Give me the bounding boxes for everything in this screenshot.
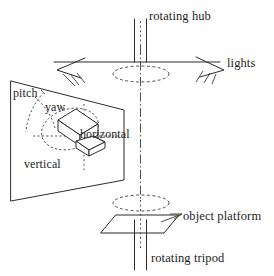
label-yaw: yaw bbox=[45, 101, 65, 113]
technical-diagram: rotating hub lights pitch yaw horizontal… bbox=[0, 0, 274, 276]
hub-rotation-ellipse bbox=[113, 66, 169, 82]
label-rotating-hub: rotating hub bbox=[149, 10, 211, 23]
platform-rotation-ellipse bbox=[113, 195, 169, 211]
diagram-canvas bbox=[0, 0, 274, 276]
label-vertical: vertical bbox=[24, 158, 61, 170]
hub-shaft bbox=[135, 19, 147, 62]
light-right bbox=[196, 57, 224, 84]
label-horizontal: horizontal bbox=[80, 128, 130, 140]
light-left-rays bbox=[63, 73, 85, 86]
label-rotating-tripod: rotating tripod bbox=[151, 252, 224, 265]
object-platform bbox=[101, 215, 179, 233]
label-object-platform: object platform bbox=[183, 210, 261, 223]
label-lights: lights bbox=[227, 57, 255, 70]
label-pitch: pitch bbox=[13, 87, 38, 99]
